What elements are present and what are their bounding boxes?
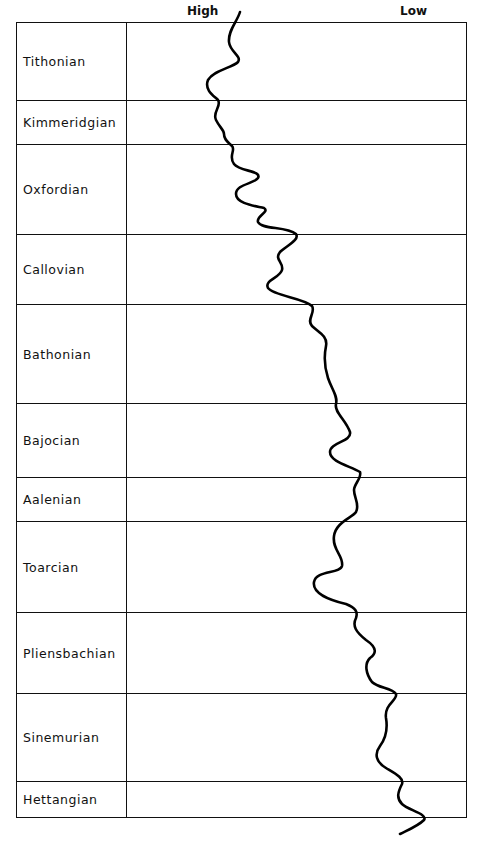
sea-level-curve (0, 0, 484, 847)
